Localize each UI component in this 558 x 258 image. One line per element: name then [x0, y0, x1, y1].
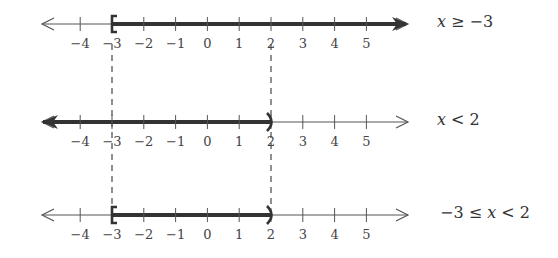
tick-label: −1: [166, 227, 185, 242]
tick-label: 2: [267, 227, 275, 242]
tick-label: 2: [267, 36, 275, 51]
tick-label: 1: [235, 36, 243, 51]
tick-label: 5: [362, 227, 370, 242]
tick-label: 1: [235, 227, 243, 242]
tick-label: −4: [71, 134, 90, 149]
tick-label: 5: [362, 36, 370, 51]
tick-label: 3: [299, 227, 307, 242]
tick-label: −3: [102, 227, 121, 242]
tick-label: −3: [102, 134, 121, 149]
tick-label: 3: [299, 36, 307, 51]
tick-label: −2: [134, 134, 153, 149]
tick-label: 1: [235, 134, 243, 149]
variable-x: x: [487, 203, 496, 222]
tick-label: −3: [102, 36, 121, 51]
tick-label: 4: [330, 227, 338, 242]
tick-label: 2: [267, 134, 275, 149]
tick-label: 0: [203, 227, 211, 242]
inequality-label-2: x < 2: [437, 110, 480, 129]
tick-label: 4: [330, 36, 338, 51]
inequality-label-3: −3 ≤ x < 2: [440, 203, 530, 222]
tick-label: −2: [134, 36, 153, 51]
tick-label: 5: [362, 134, 370, 149]
tick-label: 0: [203, 36, 211, 51]
tick-label: 4: [330, 134, 338, 149]
tick-label: −1: [166, 134, 185, 149]
tick-label: 3: [299, 134, 307, 149]
variable-x: x: [437, 12, 446, 31]
tick-label: −4: [71, 227, 90, 242]
variable-x: x: [437, 110, 446, 129]
tick-label: −1: [166, 36, 185, 51]
tick-label: −4: [71, 36, 90, 51]
tick-label: 0: [203, 134, 211, 149]
inequality-label-1: x ≥ −3: [437, 12, 493, 31]
tick-label: −2: [134, 227, 153, 242]
